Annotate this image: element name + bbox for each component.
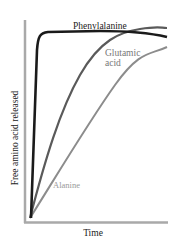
alanine-label: Alanine [53,180,80,190]
glutamic-acid-label-line1: Glutamic [105,48,140,58]
glutamic-acid-label-line2: acid [105,58,121,68]
glutamic-acid-curve [30,27,167,218]
phenylalanine-curve [31,31,167,218]
amino-acid-release-chart: Phenylalanine Glutamic acid Alanine Time… [0,0,181,244]
phenylalanine-label: Phenylalanine [73,21,127,31]
y-axis-label: Free amino acid released [10,90,20,185]
x-axis-label: Time [83,228,103,238]
alanine-curve [30,47,167,218]
